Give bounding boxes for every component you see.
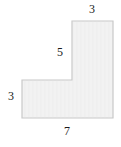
dimension-label-top: 3 — [84, 3, 100, 15]
dimension-label-left: 3 — [3, 90, 19, 102]
dimension-label-inner-vertical: 5 — [52, 46, 68, 58]
dimension-label-bottom: 7 — [59, 125, 75, 137]
figure-container: 3 5 3 7 — [0, 0, 121, 147]
l-shape-polygon — [22, 21, 113, 118]
